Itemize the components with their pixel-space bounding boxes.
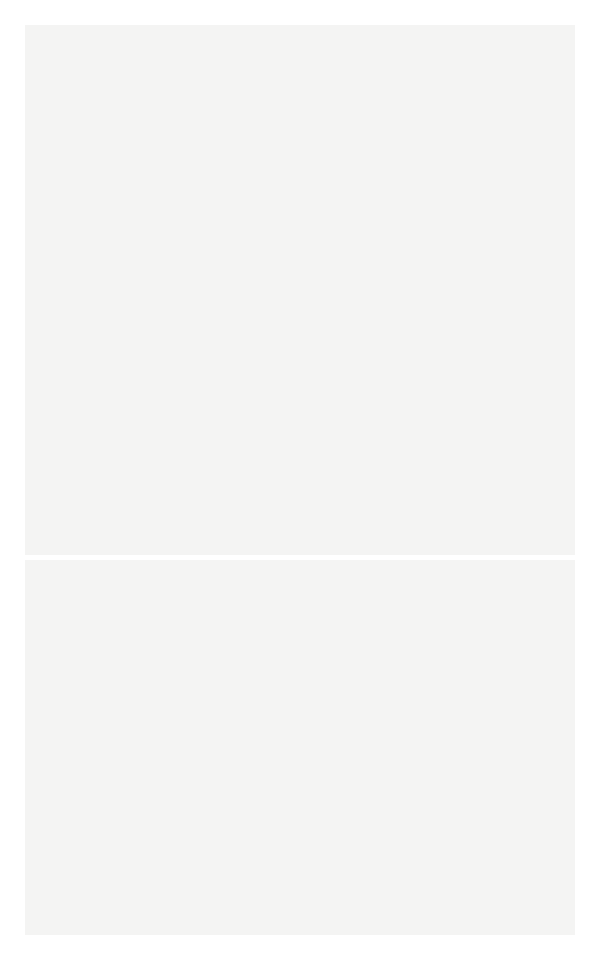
- bottom-diagram-edge-on-galaxy: [0, 0, 605, 968]
